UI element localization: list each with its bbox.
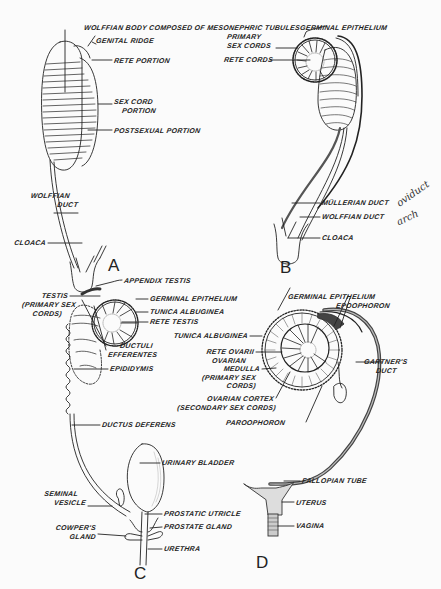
label-ductuli-1: DUCTULI [119, 342, 153, 350]
label-ductus-deferens: DUCTUS DEFERENS [101, 421, 176, 429]
panel-a-drawing [42, 30, 112, 292]
label-sex-cord-portion-2: PORTION [121, 107, 156, 115]
label-cloaca-b: CLOACA [321, 234, 354, 242]
label-mullerian-duct: MÜLLERIAN DUCT [321, 199, 389, 207]
panel-b-drawing [270, 26, 362, 264]
label-epididymis: EPIDIDYMIS [109, 365, 154, 373]
label-cowpers-gland-1: COWPER'S [39, 524, 96, 532]
label-rete-portion: RETE PORTION [113, 57, 170, 65]
panel-letter-c: C [134, 564, 146, 584]
label-testis-2: (PRIMARY SEX [9, 301, 76, 309]
label-wolffian-duct-1: WOLFFIAN [19, 192, 70, 200]
label-uterus: UTERUS [295, 499, 327, 507]
label-testis-3: CORDS) [19, 310, 62, 318]
panel-letter-b: B [280, 258, 291, 278]
label-germinal-epithelium-b: GERMINAL EPITHELIUM [299, 24, 387, 32]
label-ovarian-medulla-3: (PRIMARY SEX [179, 374, 256, 382]
figure-canvas: WOLFFIAN BODY COMPOSED OF MESONEPHRIC TU… [0, 0, 441, 589]
label-germinal-epithelium-d: GERMINAL EPITHELIUM [287, 293, 375, 301]
label-postsexual-portion: POSTSEXUAL PORTION [113, 127, 201, 135]
label-paroophoron: PAROOPHORON [225, 419, 285, 427]
label-gartners-duct-2: DUCT [375, 367, 397, 375]
label-ovarian-cortex-1: OVARIAN CORTEX [179, 395, 274, 403]
label-seminal-vesicle-1: SEMINAL [29, 490, 78, 498]
label-tunica-albuginea-d: TUNICA ALBUGINEA [169, 332, 248, 340]
label-urinary-bladder: URINARY BLADDER [161, 459, 234, 467]
label-wolffian-body: WOLFFIAN BODY COMPOSED OF MESONEPHRIC TU… [83, 24, 300, 32]
label-testis-1: TESTIS [19, 292, 68, 300]
label-cloaca-a: CLOACA [9, 239, 46, 247]
label-appendix-testis: APPENDIX TESTIS [123, 277, 191, 285]
label-rete-ovarii: RETE OVARII [189, 348, 254, 356]
label-prostatic-utricle: PROSTATIC UTRICLE [163, 510, 241, 518]
label-sex-cord-portion-1: SEX CORD [113, 98, 153, 106]
label-ovarian-cortex-2: (SECONDARY SEX CORDS) [159, 404, 276, 412]
label-ovarian-medulla-4: CORDS) [199, 382, 256, 390]
label-ductuli-2: EFFERENTES [107, 351, 157, 359]
label-wolffian-duct-b: WOLFFIAN DUCT [321, 213, 384, 221]
label-cowpers-gland-2: GLAND [39, 533, 96, 541]
label-fallopian-tube: FALLOPIAN TUBE [301, 477, 367, 485]
label-germinal-epithelium-c: GERMINAL EPITHELIUM [149, 295, 237, 303]
label-primary-sex-cords-1: PRIMARY [226, 33, 261, 41]
label-tunica-albuginea-c: TUNICA ALBUGINEA [149, 308, 224, 316]
label-ovarian-medulla-2: MEDULLA [189, 365, 260, 373]
label-urethra: URETHRA [163, 545, 200, 553]
label-genital-ridge: GENITAL RIDGE [95, 37, 154, 45]
label-rete-testis: RETE TESTIS [149, 318, 199, 326]
label-prostate-gland: PROSTATE GLAND [163, 523, 232, 531]
label-wolffian-duct-2: DUCT [19, 201, 78, 209]
label-epoophoron: EPOOPHORON [335, 302, 390, 310]
label-rete-cords: RETE CORDS [223, 56, 273, 64]
label-seminal-vesicle-2: VESICLE [29, 499, 86, 507]
panel-letter-a: A [108, 256, 119, 276]
panel-letter-d: D [256, 553, 268, 573]
label-gartners-duct-1: GARTNER'S [363, 358, 408, 366]
label-ovarian-medulla-1: OVARIAN [189, 357, 246, 365]
label-primary-sex-cords-2: SEX CORDS [226, 42, 271, 50]
label-vagina: VAGINA [295, 522, 325, 530]
